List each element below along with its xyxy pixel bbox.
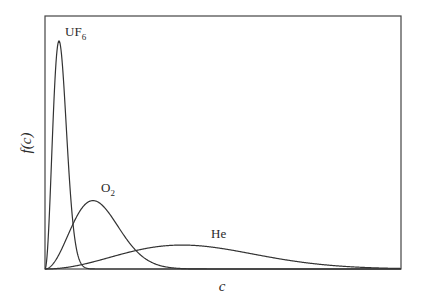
chart: UF6 O2 He c f(c) (0, 0, 421, 305)
x-axis-label: c (219, 278, 226, 294)
curve-he (45, 245, 401, 269)
series-label-uf6: UF6 (65, 24, 87, 42)
series-label-he: He (211, 226, 226, 241)
series-label-o2: O2 (101, 180, 115, 198)
y-axis-label: f(c) (18, 133, 35, 154)
